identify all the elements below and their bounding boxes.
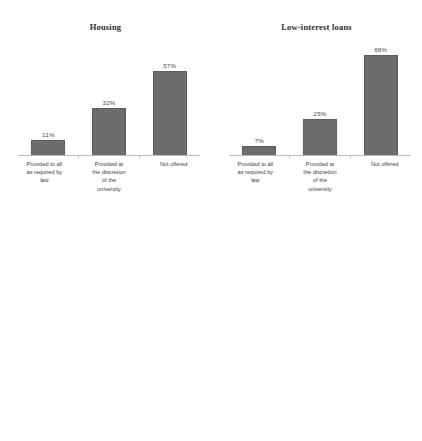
bar-value-label: 11%: [18, 131, 79, 138]
bar-value-label: 32%: [79, 99, 140, 106]
bar: [92, 108, 126, 156]
bar: [364, 55, 398, 156]
chart-title-housing: Housing: [0, 22, 211, 32]
x-axis-line: [18, 155, 200, 156]
axis-tick: [350, 156, 351, 159]
category-label-not-offered: Not offered: [141, 160, 206, 193]
bar: [31, 140, 65, 156]
bar-slot: 32%: [79, 38, 140, 156]
plot-area-low-interest-loans: 7% 25% 68%: [229, 38, 411, 156]
category-label-provided-to-all: Provided to all as required by law: [12, 160, 77, 193]
bar-slot: 57%: [139, 38, 200, 156]
axis-tick: [289, 156, 290, 159]
category-label-not-offered: Not offered: [352, 160, 417, 193]
chart-panel-low-interest-loans: Low-interest loans 7% 25% 68%: [211, 0, 422, 220]
category-labels-housing: Provided to all as required by law Provi…: [12, 160, 206, 193]
bar-slot: 7%: [229, 38, 290, 156]
x-axis-line: [229, 155, 411, 156]
chart-title-low-interest-loans: Low-interest loans: [211, 22, 422, 32]
bar-value-label: 7%: [229, 137, 290, 144]
bar-series-housing: 11% 32% 57%: [18, 38, 200, 156]
category-labels-low-interest-loans: Provided to all as required by law Provi…: [223, 160, 417, 193]
bar-series-low-interest-loans: 7% 25% 68%: [229, 38, 411, 156]
bar-value-label: 25%: [290, 110, 351, 117]
axis-tick: [139, 156, 140, 159]
chart-grid: Housing 11% 32% 57%: [0, 0, 422, 441]
category-label-provided-to-all: Provided to all as required by law: [223, 160, 288, 193]
bar: [303, 119, 337, 156]
bar-value-label: 57%: [139, 62, 200, 69]
chart-panel-retirement-funds: Retirement funds 86% 11% 4%: [211, 220, 422, 441]
bar: [153, 71, 187, 156]
category-label-provided-at-discretion: Provided at the discretion of the univer…: [77, 160, 142, 193]
bar-slot: 25%: [290, 38, 351, 156]
axis-tick: [78, 156, 79, 159]
chart-panel-housing: Housing 11% 32% 57%: [0, 0, 211, 220]
chart-panel-paid-vacations: Paid vacations 75% 11% 14%: [0, 220, 211, 441]
bar-slot: 11%: [18, 38, 79, 156]
plot-area-housing: 11% 32% 57%: [18, 38, 200, 156]
category-label-provided-at-discretion: Provided at the discretion of the univer…: [288, 160, 353, 193]
bar-value-label: 68%: [350, 46, 411, 53]
bar-slot: 68%: [350, 38, 411, 156]
